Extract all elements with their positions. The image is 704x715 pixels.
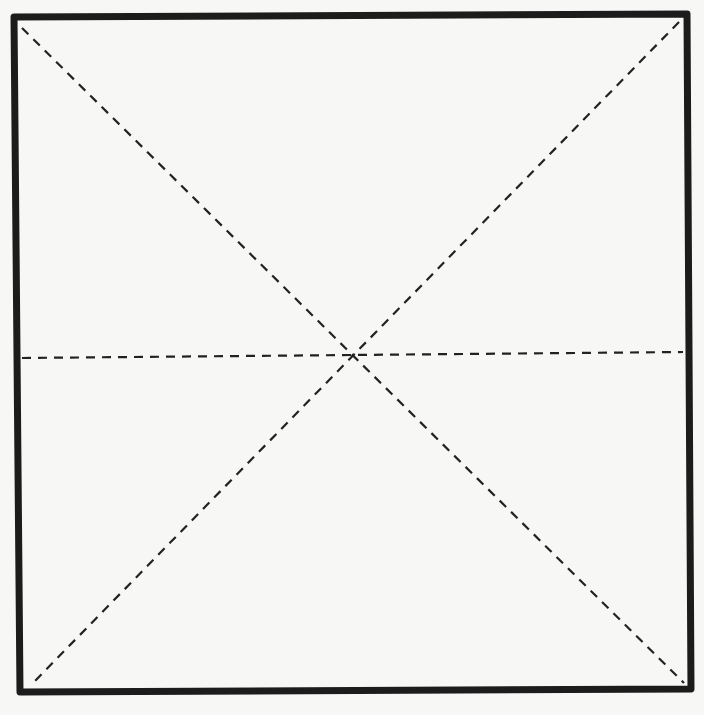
folding-diagram	[0, 0, 704, 715]
